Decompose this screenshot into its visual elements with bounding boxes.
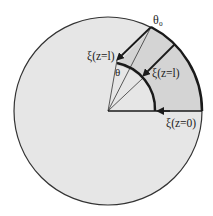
label-xi-mid: ξ(z=l) [152, 67, 180, 80]
label-theta0: θ₀ [153, 13, 163, 27]
label-xi-left: ξ(z=l) [87, 50, 115, 63]
label-xi-bottom: ξ(z=0) [166, 117, 196, 130]
fiber-cross-section-diagram: θ₀ θ ξ(z=l) ξ(z=l) ξ(z=0) [0, 0, 213, 216]
label-theta: θ [115, 66, 120, 78]
